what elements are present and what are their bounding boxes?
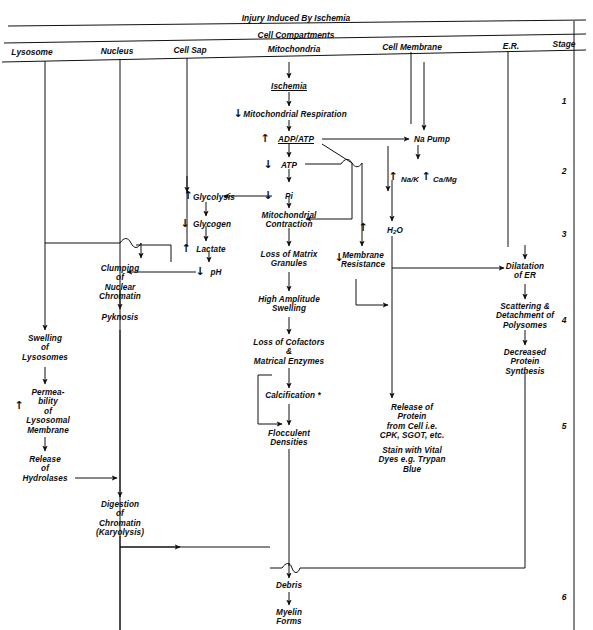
up-arrow-adp-atp: ↑ xyxy=(260,133,269,144)
page-title: Injury Induced By Ischemia xyxy=(242,13,350,23)
node-stain-with-vital-dyes: Stain with Vital Dyes e.g. Trypan Blue xyxy=(379,446,446,474)
node-ca-mg: Ca/Mg xyxy=(433,175,457,184)
stage-3: 3 xyxy=(562,229,567,239)
stage-2: 2 xyxy=(562,166,567,176)
node-atp: ATP xyxy=(281,161,297,170)
node-dilatation-of-er: Dilatation of ER xyxy=(506,262,544,281)
node-decreased-protein-synthesis: Decreased Protein Synthesis xyxy=(504,348,546,376)
node-debris: Debris xyxy=(276,581,302,590)
node-swelling-of-lysosomes: Swelling of Lysosomes xyxy=(22,334,68,362)
node-ischemia: Ischemia xyxy=(271,82,307,91)
node-pyknosis: Pyknosis xyxy=(102,313,139,322)
node-release-of-hydrolases: Release of Hydrolases xyxy=(22,455,67,483)
node-calcification: Calcification * xyxy=(265,391,321,400)
node-loss-of-cofactors: Loss of Cofactors & Matrical Enzymes xyxy=(253,338,324,366)
ischemia-injury-flowchart: Injury Induced By Ischemia Cell Compartm… xyxy=(0,0,593,630)
up-arrow-permeability: ↑ xyxy=(14,400,23,411)
node-na-k: Na/K xyxy=(401,175,419,184)
stage-1: 1 xyxy=(562,96,567,106)
up-arrow-h2o: ↑ xyxy=(358,222,367,233)
column-header-stage: Stage xyxy=(553,39,576,49)
node-digestion-of-chromatin: Digestion of Chromatin (Karyolysis) xyxy=(96,500,144,538)
down-arrow-mito-respiration: ↓ xyxy=(233,108,242,119)
node-membrane-resistance: Membrane Resistance xyxy=(341,251,385,270)
node-permeability-lysosomal-membrane: Permea- bility of Lysosomal Membrane xyxy=(26,388,70,435)
node-glycogen: Glycogen xyxy=(193,220,231,229)
up-arrow-na-k: ↑ xyxy=(388,171,397,182)
node-pi: Pi xyxy=(285,192,293,201)
node-adp-atp: ADP/ATP xyxy=(278,135,314,144)
up-arrow-lactate: ↑ xyxy=(181,243,190,254)
h2o-o: O xyxy=(397,226,403,235)
column-header-lysosome: Lysosome xyxy=(11,47,52,57)
node-na-pump: Na Pump xyxy=(414,135,450,144)
stage-5: 5 xyxy=(562,421,567,431)
stage-6: 6 xyxy=(562,592,567,602)
column-header-er: E.R. xyxy=(503,41,519,51)
stage-4: 4 xyxy=(562,315,567,325)
down-arrow-glycogen: ↓ xyxy=(180,218,189,229)
column-header-cell-membrane: Cell Membrane xyxy=(382,42,442,52)
column-header-nucleus: Nucleus xyxy=(101,46,134,56)
node-loss-of-matrix-granules: Loss of Matrix Granules xyxy=(261,250,318,269)
up-arrow-ca-mg: ↑ xyxy=(421,171,430,182)
node-myelin-forms: Myelin Forms xyxy=(276,608,302,627)
node-mitochondrial-respiration: Mitochondrial Respiration xyxy=(243,110,346,119)
node-scattering-detachment-polysomes: Scattering & Detachment of Polysomes xyxy=(496,302,554,330)
node-h2o: H2O xyxy=(387,226,403,236)
down-arrow-pi: ↓ xyxy=(263,190,272,201)
node-glycolysis: Glycolysis xyxy=(193,193,235,202)
node-ph: pH xyxy=(210,268,221,277)
column-header-cell-sap: Cell Sap xyxy=(173,45,206,55)
node-lactate: Lactate xyxy=(196,245,225,254)
node-clumping-of-nuclear-chromatin: Clumping of Nuclear Chromatin xyxy=(99,264,141,302)
node-high-amplitude-swelling: High Amplitude Swelling xyxy=(258,295,320,314)
down-arrow-ph: ↓ xyxy=(195,266,204,277)
down-arrow-atp: ↓ xyxy=(263,159,272,170)
node-mitochondrial-contraction: Mitochondrial Contraction xyxy=(262,211,317,230)
node-flocculent-densities: Flocculent Densities xyxy=(268,429,310,448)
up-arrow-glycolysis: ↑ xyxy=(183,190,192,201)
node-release-of-protein: Release of Protein from Cell i.e. CPK, S… xyxy=(380,403,445,441)
column-header-mitochondria: Mitochondria xyxy=(268,44,321,54)
cell-compartments-band: Cell Compartments xyxy=(258,30,335,40)
